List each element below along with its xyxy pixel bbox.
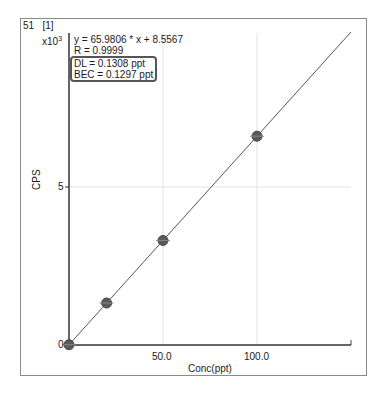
y-tick-5: 5 xyxy=(58,181,64,192)
y-scale-label: x103 xyxy=(42,33,62,47)
x-tick-100: 100.0 xyxy=(244,351,269,362)
calibration-plot xyxy=(0,0,386,397)
r-value-text: R = 0.9999 xyxy=(74,45,123,56)
detection-limits-box: DL = 0.1308 ppt BEC = 0.1297 ppt xyxy=(70,56,157,82)
equation-text: y = 65.9806 * x + 8.5567 xyxy=(74,34,183,45)
element-label: 51 [1] xyxy=(23,20,54,31)
y-tick-0: 0 xyxy=(58,339,64,350)
x-axis-label: Conc(ppt) xyxy=(188,363,232,374)
x-tick-50: 50.0 xyxy=(152,351,171,362)
bec-text: BEC = 0.1297 ppt xyxy=(74,69,153,80)
dl-text: DL = 0.1308 ppt xyxy=(74,58,153,69)
y-axis-label: CPS xyxy=(31,169,42,190)
